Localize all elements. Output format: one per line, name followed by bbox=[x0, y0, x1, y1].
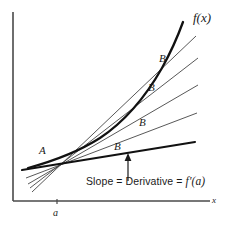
secant-line-3 bbox=[28, 85, 198, 184]
point-label-b-4: B bbox=[114, 141, 121, 152]
x-tick-label-a: a bbox=[53, 208, 58, 218]
secant-line-1 bbox=[32, 36, 196, 192]
curve-label-fx: f(x) bbox=[193, 11, 211, 24]
point-label-b-2: B bbox=[148, 82, 155, 93]
function-curve bbox=[28, 22, 183, 168]
derivative-figure: f(x) A B B B B a x Slope = Derivative = … bbox=[0, 0, 238, 229]
figure-canvas bbox=[0, 0, 238, 229]
caption-text-part-5: ) bbox=[201, 175, 205, 187]
point-label-b-1: B bbox=[159, 53, 166, 64]
point-label-a: A bbox=[39, 145, 46, 156]
caption-slope-derivative: Slope = Derivative = f′(a) bbox=[86, 176, 205, 188]
x-axis-label: x bbox=[212, 196, 216, 205]
point-label-b-3: B bbox=[139, 117, 146, 128]
caption-text-part-1: Slope = Derivative = bbox=[86, 175, 186, 187]
